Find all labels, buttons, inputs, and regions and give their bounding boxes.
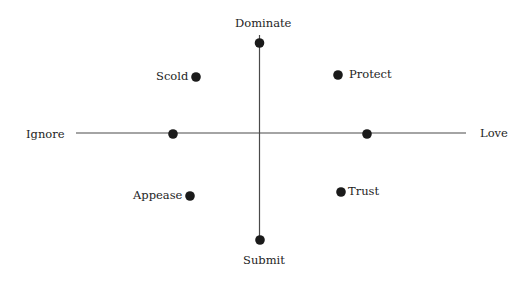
dot-trust — [336, 187, 346, 197]
quadrant-diagram — [0, 0, 532, 282]
dot-appease — [185, 191, 195, 201]
dot-protect — [333, 70, 343, 80]
dot-submit — [255, 235, 265, 245]
label-protect: Protect — [349, 67, 392, 81]
dot-scold — [191, 72, 201, 82]
label-dominate: Dominate — [235, 16, 291, 30]
dot-dominate — [255, 38, 265, 48]
label-trust: Trust — [348, 184, 379, 198]
label-ignore: Ignore — [26, 127, 65, 141]
label-submit: Submit — [243, 253, 285, 267]
label-love: Love — [480, 126, 508, 140]
label-scold: Scold — [156, 69, 188, 83]
label-appease: Appease — [133, 188, 182, 202]
dot-love — [362, 129, 372, 139]
dot-ignore — [168, 129, 178, 139]
